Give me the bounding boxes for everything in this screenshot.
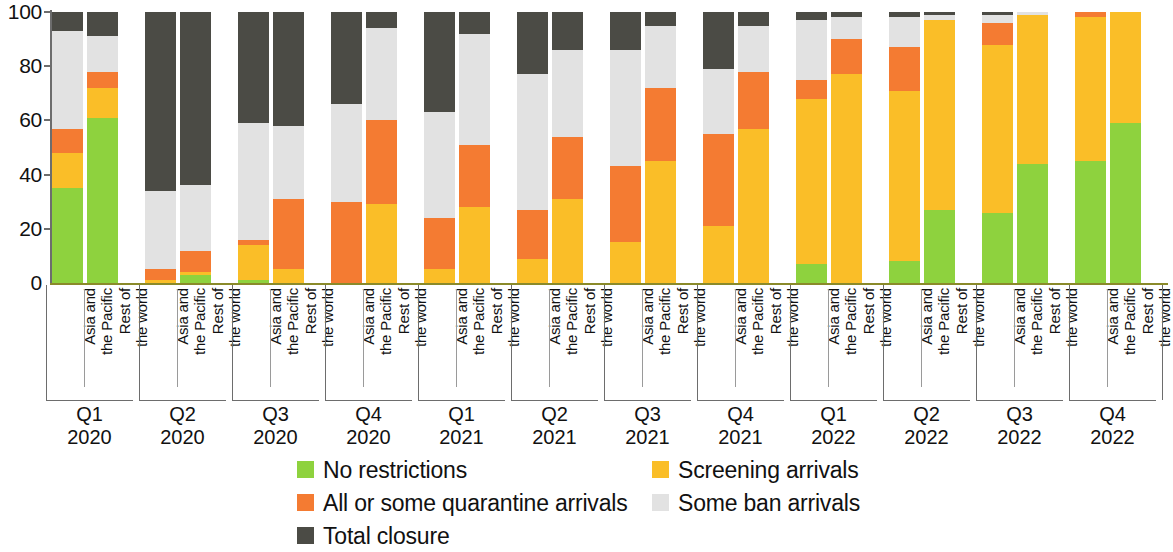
group-label: Q2 2021 — [511, 403, 598, 449]
legend-swatch — [297, 494, 314, 511]
bar-segment — [796, 80, 827, 99]
bar-segment — [924, 210, 955, 283]
legend-item: Some ban arrivals — [652, 490, 860, 516]
legend-label: All or some quarantine arrivals — [323, 490, 627, 516]
pair-separator — [1107, 289, 1108, 387]
bar-segment — [738, 129, 769, 283]
bar-segment — [87, 118, 118, 283]
legend-swatch — [297, 527, 314, 544]
group-separator — [1162, 285, 1163, 400]
bar-column — [1075, 12, 1106, 283]
y-tick-label: 20 — [0, 218, 42, 239]
y-tick-label: 80 — [0, 55, 42, 76]
group-label: Q3 2021 — [604, 403, 691, 449]
bar-column — [982, 12, 1013, 283]
bar-segment — [1110, 12, 1141, 123]
bar-segment — [1075, 17, 1106, 161]
bar-segment — [366, 204, 397, 283]
legend-swatch — [652, 461, 669, 478]
bar-segment — [738, 26, 769, 72]
bar-segment — [982, 45, 1013, 213]
y-axis: 020406080100 — [0, 0, 42, 300]
pair-separator — [84, 289, 85, 387]
bar-segment — [180, 185, 211, 250]
bar-column — [517, 12, 548, 283]
bar-column — [703, 12, 734, 283]
bar-segment — [703, 12, 734, 69]
group-separator — [139, 285, 140, 400]
bar-column — [1110, 12, 1141, 283]
bar-segment — [703, 69, 734, 134]
bar-segment — [552, 199, 583, 283]
bar-segment — [924, 20, 955, 210]
group-label: Q1 2022 — [790, 403, 877, 449]
bar-segment — [889, 91, 920, 262]
y-tick-mark — [44, 228, 51, 230]
pair-separator — [1014, 289, 1015, 387]
bar-segment — [796, 264, 827, 283]
pair-separator — [642, 289, 643, 387]
pair-separator — [270, 289, 271, 387]
bar-segment — [424, 269, 455, 283]
bar-column — [331, 12, 362, 283]
legend-item: Total closure — [297, 523, 450, 549]
bar-segment — [552, 50, 583, 137]
bar-segment — [552, 12, 583, 50]
legend-label: Total closure — [323, 523, 450, 549]
bar-segment — [273, 199, 304, 269]
bar-segment — [238, 123, 269, 240]
group-label: Q3 2020 — [232, 403, 319, 449]
bar-segment — [180, 275, 211, 283]
legend-label: No restrictions — [323, 457, 467, 483]
y-tick-label: 40 — [0, 164, 42, 185]
y-tick-mark — [44, 11, 51, 13]
bar-segment — [145, 191, 176, 270]
bar-segment — [424, 12, 455, 112]
bar-column — [366, 12, 397, 283]
bar-column — [645, 12, 676, 283]
group-separator — [883, 285, 884, 400]
bar-segment — [424, 112, 455, 218]
bar-segment — [738, 72, 769, 129]
group-label: Q3 2022 — [976, 403, 1063, 449]
legend-item: All or some quarantine arrivals — [297, 490, 627, 516]
group-separator — [46, 285, 47, 400]
bar-segment — [982, 15, 1013, 23]
bar-segment — [366, 12, 397, 28]
group-label: Q1 2020 — [46, 403, 133, 449]
bar-segment — [552, 137, 583, 199]
bar-segment — [459, 12, 490, 34]
group-label: Q2 2020 — [139, 403, 226, 449]
bar-segment — [273, 126, 304, 199]
bar-segment — [517, 259, 548, 283]
bar-segment — [703, 134, 734, 226]
bar-segment — [645, 12, 676, 26]
bar-segment — [703, 226, 734, 283]
bar-column — [273, 12, 304, 283]
group-baseline — [976, 400, 1063, 401]
group-label: Q4 2020 — [325, 403, 412, 449]
group-baseline — [511, 400, 598, 401]
chart-legend: No restrictionsScreening arrivalsAll or … — [0, 455, 1170, 552]
legend-item: No restrictions — [297, 457, 467, 483]
bar-column — [831, 12, 862, 283]
bar-column — [552, 12, 583, 283]
bar-segment — [645, 161, 676, 283]
bar-segment — [645, 88, 676, 161]
bar-segment — [459, 34, 490, 145]
bar-segment — [1017, 164, 1048, 283]
legend-label: Some ban arrivals — [678, 490, 860, 516]
bar-segment — [52, 188, 83, 283]
bar-segment — [517, 12, 548, 74]
bar-segment — [796, 20, 827, 80]
bar-segment — [52, 129, 83, 153]
bar-segment — [459, 145, 490, 207]
bar-segment — [87, 12, 118, 36]
group-label: Q4 2021 — [697, 403, 784, 449]
y-tick-label: 60 — [0, 109, 42, 130]
bar-segment — [610, 50, 641, 167]
bar-segment — [238, 280, 269, 283]
group-separator — [325, 285, 326, 400]
bar-column — [87, 12, 118, 283]
bar-segment — [459, 207, 490, 283]
